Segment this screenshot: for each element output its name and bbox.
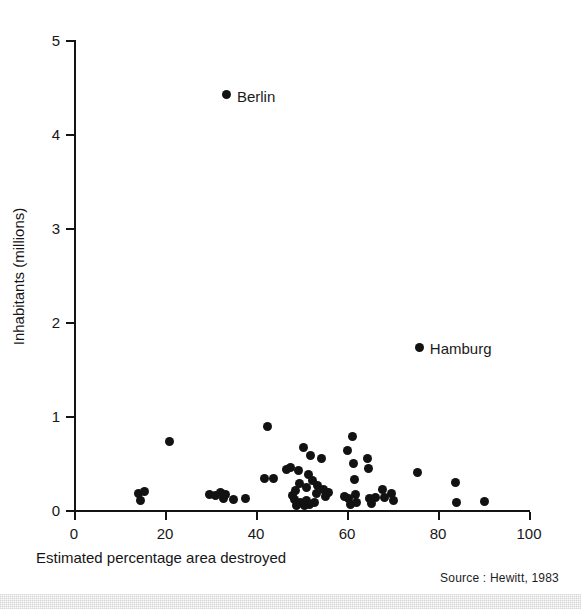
data-point	[413, 468, 422, 477]
y-tick	[66, 322, 74, 324]
x-tick-label: 0	[54, 526, 94, 541]
y-tick	[66, 510, 74, 512]
data-point	[317, 454, 326, 463]
data-point	[343, 446, 352, 455]
x-tick-label: 100	[509, 526, 549, 541]
data-point	[389, 496, 398, 505]
y-axis-line	[74, 40, 76, 512]
x-tick-label: 80	[418, 526, 458, 541]
y-tick-label: 0	[20, 503, 60, 518]
data-point	[349, 459, 358, 468]
data-point	[324, 488, 333, 497]
x-tick-label: 60	[327, 526, 367, 541]
plot-area: 012345 020406080100 BerlinHamburg	[74, 40, 529, 511]
data-point-hamburg	[415, 343, 424, 352]
source-note: Source : Hewitt, 1983	[440, 571, 559, 585]
x-axis-title: Estimated percentage area destroyed	[36, 549, 286, 566]
data-point	[241, 494, 250, 503]
y-axis-title: Inhabitants (millions)	[10, 127, 27, 427]
scatter-plot-figure: 012345 020406080100 BerlinHamburg Estima…	[0, 0, 581, 609]
x-tick	[256, 512, 258, 520]
x-tick-label: 40	[236, 526, 276, 541]
data-point	[299, 443, 308, 452]
y-tick-label: 5	[20, 33, 60, 48]
data-point	[310, 498, 319, 507]
data-point	[229, 495, 238, 504]
x-tick	[347, 512, 349, 520]
annotation-berlin: Berlin	[237, 89, 275, 104]
data-point	[306, 451, 315, 460]
data-point	[140, 487, 149, 496]
y-tick	[66, 416, 74, 418]
data-point	[269, 474, 278, 483]
data-point	[350, 475, 359, 484]
y-tick	[66, 228, 74, 230]
x-tick	[438, 512, 440, 520]
data-point	[294, 466, 303, 475]
bottom-halftone-band	[0, 594, 581, 609]
x-tick	[74, 512, 76, 520]
data-point	[165, 437, 174, 446]
data-point	[136, 496, 145, 505]
data-point	[352, 498, 361, 507]
data-point	[260, 474, 269, 483]
data-point	[263, 422, 272, 431]
data-point	[451, 478, 460, 487]
data-point-berlin	[222, 90, 231, 99]
data-point	[348, 432, 357, 441]
x-axis-line	[74, 510, 530, 512]
x-tick	[529, 512, 531, 520]
data-point	[452, 498, 461, 507]
data-point	[363, 454, 372, 463]
data-point	[371, 493, 380, 502]
data-point	[364, 464, 373, 473]
data-point	[480, 497, 489, 506]
x-tick	[165, 512, 167, 520]
x-tick-label: 20	[145, 526, 185, 541]
y-tick	[66, 40, 74, 42]
annotation-hamburg: Hamburg	[430, 341, 492, 356]
y-tick	[66, 134, 74, 136]
